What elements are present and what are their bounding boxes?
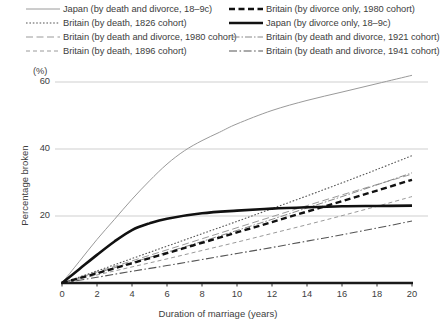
legend-item-label: Britain (by death, 1826 cohort) (63, 18, 187, 28)
x-tick-label-12: 12 (260, 289, 284, 299)
x-tick-label-2: 2 (85, 289, 109, 299)
x-axis-title: Duration of marriage (years) (0, 308, 436, 319)
legend-swatch-icon (229, 18, 263, 28)
legend-item-label: Japan (by death and divorce, 18–9c) (63, 4, 212, 14)
legend-item-label: Britain (by death and divorce, 1941 coho… (266, 46, 440, 56)
y-tick-label-20: 20 (24, 210, 50, 220)
legend-item: Britain (by divorce only, 1980 cohort) (229, 2, 436, 16)
legend-item-label: Britain (by death, 1896 cohort) (63, 46, 187, 56)
legend-item-label: Japan (by divorce only, 18–9c) (266, 18, 390, 28)
y-tick-label-40: 40 (24, 143, 50, 153)
x-tick-label-14: 14 (295, 289, 319, 299)
legend-item: Britain (by death, 1896 cohort) (26, 44, 231, 58)
y-tick-label-60: 60 (24, 76, 50, 86)
legend-column-right: Britain (by divorce only, 1980 cohort)Ja… (229, 2, 436, 58)
chart-legend: Japan (by death and divorce, 18–9c)Brita… (0, 2, 436, 60)
legend-item: Britain (by death, 1826 cohort) (26, 16, 231, 30)
y-axis-unit-label: (%) (33, 66, 47, 76)
x-tick-label-6: 6 (155, 289, 179, 299)
legend-swatch-icon (26, 18, 60, 28)
legend-item-label: Britain (by death and divorce, 1980 coho… (63, 32, 237, 42)
x-tick-label-8: 8 (190, 289, 214, 299)
series-line-0 (62, 75, 412, 283)
x-tick-label-18: 18 (365, 289, 389, 299)
legend-swatch-icon (26, 46, 60, 56)
x-tick-label-16: 16 (330, 289, 354, 299)
legend-swatch-icon (26, 4, 60, 14)
legend-item: Japan (by death and divorce, 18–9c) (26, 2, 231, 16)
legend-item-label: Britain (by death and divorce, 1921 coho… (266, 32, 440, 42)
legend-swatch-icon (229, 32, 263, 42)
x-tick-label-20: 20 (400, 289, 424, 299)
legend-swatch-icon (229, 46, 263, 56)
legend-item: Britain (by death and divorce, 1921 coho… (229, 30, 436, 44)
plot-area: (%) Percentage broken Duration of marria… (0, 58, 436, 330)
legend-column-left: Japan (by death and divorce, 18–9c)Brita… (26, 2, 231, 58)
legend-item: Britain (by death and divorce, 1941 coho… (229, 44, 436, 58)
x-tick-label-4: 4 (120, 289, 144, 299)
series-line-2 (62, 174, 412, 283)
legend-item: Japan (by divorce only, 18–9c) (229, 16, 436, 30)
legend-item: Britain (by death and divorce, 1980 coho… (26, 30, 231, 44)
x-tick-label-10: 10 (225, 289, 249, 299)
x-tick-label-0: 0 (50, 289, 74, 299)
legend-item-label: Britain (by divorce only, 1980 cohort) (266, 4, 415, 14)
series-line-5 (62, 206, 412, 283)
legend-swatch-icon (26, 32, 60, 42)
legend-swatch-icon (229, 4, 263, 14)
